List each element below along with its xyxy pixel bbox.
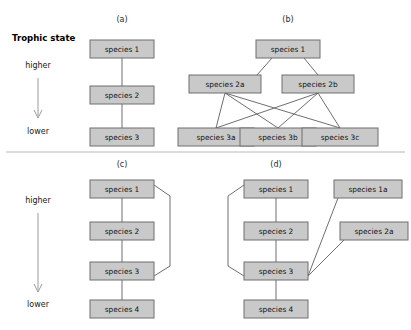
node-a-species-1[interactable]: species 1 — [90, 40, 154, 58]
link-b3a-b2a — [216, 93, 225, 128]
node-a-species-3[interactable]: species 3 — [90, 128, 154, 146]
node-d-species-2[interactable]: species 2 — [244, 222, 308, 240]
node-c-species-4[interactable]: species 4 — [90, 300, 154, 318]
node-label: species 3b — [258, 133, 298, 142]
node-label: species 2a — [205, 80, 244, 89]
node-b-species-2b[interactable]: species 2b — [282, 75, 354, 93]
node-label: species 2 — [259, 227, 294, 236]
link-b1-b2b — [304, 58, 318, 75]
node-label: species 4 — [259, 305, 294, 314]
link-d1-d3-bypass — [228, 185, 244, 276]
node-label: species 1a — [348, 185, 387, 194]
panel-label-d: (d) — [270, 160, 281, 169]
node-b-species-3c[interactable]: species 3c — [302, 128, 378, 146]
axis-higher-label-bottom: higher — [25, 196, 51, 205]
link-b3a-b2b — [216, 93, 318, 128]
axis-lower-label-bottom: lower — [27, 300, 50, 309]
node-d-species-4[interactable]: species 4 — [244, 300, 308, 318]
node-d-species-1[interactable]: species 1 — [244, 180, 308, 198]
node-label: species 1 — [105, 45, 140, 54]
node-label: species 2b — [298, 80, 338, 89]
node-label: species 1 — [271, 45, 306, 54]
panel-label-b: (b) — [282, 15, 293, 24]
node-label: species 3 — [105, 267, 140, 276]
node-c-species-3[interactable]: species 3 — [90, 262, 154, 280]
link-b1-b2a — [257, 58, 272, 75]
node-b-species-1[interactable]: species 1 — [256, 40, 320, 58]
link-d1a-d3 — [308, 198, 338, 276]
node-d-species-3[interactable]: species 3 — [244, 262, 308, 280]
node-label: species 2 — [105, 227, 140, 236]
node-label: species 2 — [105, 91, 140, 100]
axis-lower-label-top: lower — [27, 127, 50, 136]
node-a-species-2[interactable]: species 2 — [90, 86, 154, 104]
node-label: species 2a — [354, 227, 393, 236]
link-b3b-b2a — [225, 93, 278, 128]
node-b-species-2a[interactable]: species 2a — [189, 75, 261, 93]
link-b3c-b2a — [225, 93, 340, 128]
node-label: species 3c — [321, 133, 360, 142]
node-c-species-2[interactable]: species 2 — [90, 222, 154, 240]
node-d-species-1a[interactable]: species 1a — [334, 180, 402, 198]
link-d2a-d3 — [308, 240, 344, 276]
node-c-species-1[interactable]: species 1 — [90, 180, 154, 198]
node-label: species 1 — [259, 185, 294, 194]
node-d-species-2a[interactable]: species 2a — [340, 222, 408, 240]
node-label: species 3a — [196, 133, 235, 142]
axis-higher-label-top: higher — [25, 61, 51, 70]
node-label: species 1 — [105, 185, 140, 194]
trophic-state-food-web-figure: Trophic state higher lower higher lower … — [0, 0, 411, 330]
panel-label-c: (c) — [117, 160, 128, 169]
link-c1-c3-bypass — [154, 185, 170, 276]
node-label: species 3 — [259, 267, 294, 276]
trophic-state-title: Trophic state — [12, 33, 75, 43]
node-label: species 3 — [105, 133, 140, 142]
panel-label-a: (a) — [116, 15, 127, 24]
node-label: species 4 — [105, 305, 140, 314]
